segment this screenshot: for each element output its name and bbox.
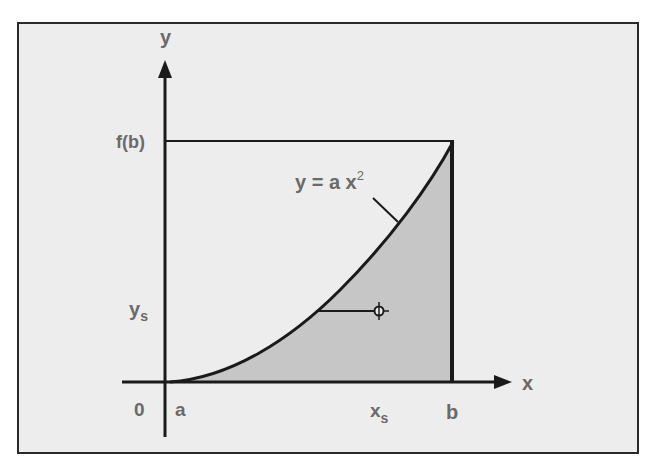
tick-label-fb: f(b) <box>116 132 145 152</box>
xs-subscript: s <box>381 410 389 426</box>
x-axis-label: x <box>522 372 533 394</box>
ys-subscript: s <box>140 308 148 324</box>
curve-equation-main: y = a x <box>295 171 357 193</box>
tick-label-a: a <box>175 399 186 420</box>
tick-label-ys: ys <box>129 298 148 324</box>
x-axis-arrow-icon <box>494 375 512 389</box>
curve-equation-label: y = a x2 <box>295 168 364 193</box>
tick-label-xs: xs <box>370 400 389 426</box>
parabola-area-diagram: y x 0 a b f(b) xs ys y = a x2 <box>0 0 657 474</box>
y-axis-arrow-icon <box>158 60 172 78</box>
curve-equation-exponent: 2 <box>357 168 364 183</box>
xs-main: x <box>370 400 381 421</box>
origin-label: 0 <box>134 399 145 420</box>
y-axis-label: y <box>160 26 172 48</box>
curve-label-leader <box>373 198 398 222</box>
tick-label-b: b <box>446 401 458 423</box>
